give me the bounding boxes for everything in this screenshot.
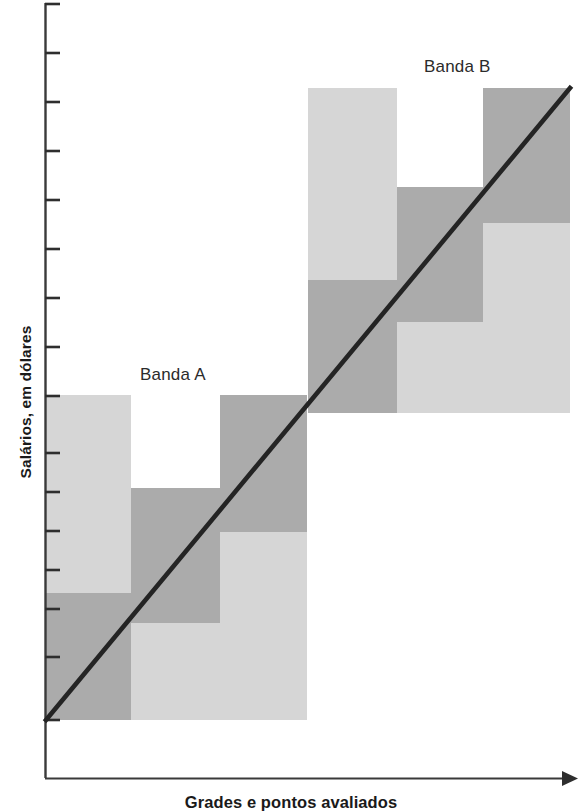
x-axis-title: Grades e pontos avaliados (0, 793, 582, 812)
salary-band-chart: Banda A Banda B Salários, em dólares Gra… (0, 0, 582, 812)
band-a-grade-1-light-block (46, 395, 131, 593)
band-a-grade-2-dark-block (131, 488, 220, 623)
band-a-region (46, 395, 307, 720)
band-b-grade-3-light-block (483, 223, 570, 413)
x-axis-arrow-icon (562, 771, 578, 786)
band-b-grade-1-light-block (308, 88, 397, 280)
band-a-grade-3-dark-block (220, 395, 307, 532)
band-b-grade-3-dark-block (483, 88, 570, 223)
band-b-grade-2-dark-block (397, 187, 483, 322)
band-b-region (308, 88, 570, 413)
band-a-grade-2-light-block (131, 623, 220, 720)
band-b-grade-1-dark-block (308, 280, 397, 413)
band-a-grade-1-dark-block (46, 593, 131, 720)
band-a-grade-3-light-block (220, 532, 307, 720)
band-b-grade-2-light-block (397, 322, 483, 413)
band-b-label: Banda B (420, 57, 495, 78)
band-a-label: Banda A (136, 365, 210, 386)
y-axis-title: Salários, em dólares (17, 312, 35, 492)
